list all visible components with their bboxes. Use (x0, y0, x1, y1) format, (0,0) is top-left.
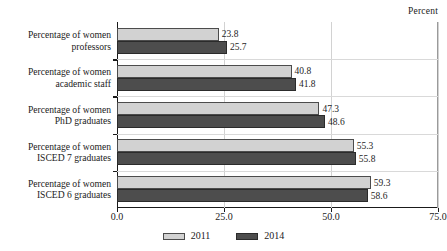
bar-value-label: 58.6 (368, 191, 388, 201)
bar-2014[interactable] (117, 78, 296, 91)
bar-2014[interactable] (117, 152, 356, 165)
bar-2011[interactable] (117, 28, 219, 41)
legend-label-2014: 2014 (264, 231, 284, 241)
x-axis-line (117, 207, 438, 208)
category-label-line1: Percentage of women (0, 66, 111, 78)
vertical-gridline (438, 22, 439, 208)
legend-label-2011: 2011 (191, 231, 211, 241)
bar-2011[interactable] (117, 65, 292, 78)
x-axis-tick-label: 25.0 (215, 211, 233, 222)
plot-area: 23.825.740.841.847.348.655.355.859.358.6 (117, 22, 438, 208)
x-axis-tick-label: 0.0 (111, 211, 124, 222)
category-label-line2: ISCED 7 graduates (0, 152, 111, 164)
x-axis-tick-label: 50.0 (322, 211, 340, 222)
legend-swatch-2011 (163, 233, 185, 240)
category-label: Percentage of womenISCED 6 graduates (0, 178, 111, 201)
category-label-line2: ISCED 6 graduates (0, 189, 111, 201)
category-label-line1: Percentage of women (0, 141, 111, 153)
y-axis-tick (113, 171, 117, 172)
legend-item-2011[interactable]: 2011 (163, 231, 211, 241)
bar-2014[interactable] (117, 115, 325, 128)
chart-legend: 2011 2014 (0, 231, 447, 241)
bar-2011[interactable] (117, 139, 354, 152)
category-label-line1: Percentage of women (0, 104, 111, 116)
y-axis-tick (113, 96, 117, 97)
bar-value-label: 40.8 (292, 66, 312, 76)
category-label: Percentage of womenPhD graduates (0, 104, 111, 127)
bar-value-label: 47.3 (319, 104, 339, 114)
bar-2011[interactable] (117, 176, 371, 189)
category-label: Percentage of womenprofessors (0, 29, 111, 52)
horizontal-gridline (117, 96, 438, 97)
horizontal-gridline (117, 134, 438, 135)
category-label-line2: PhD graduates (0, 115, 111, 127)
horizontal-gridline (117, 59, 438, 60)
bar-2011[interactable] (117, 102, 319, 115)
bar-2014[interactable] (117, 41, 227, 54)
bar-value-label: 48.6 (325, 117, 345, 127)
category-label: Percentage of womenISCED 7 graduates (0, 141, 111, 164)
category-label-line2: academic staff (0, 78, 111, 90)
bar-value-label: 23.8 (219, 29, 239, 39)
category-label-line2: professors (0, 41, 111, 53)
percent-unit-caption: Percent (408, 6, 438, 16)
bar-2014[interactable] (117, 189, 368, 202)
legend-swatch-2014 (236, 233, 258, 240)
y-axis-tick (113, 59, 117, 60)
bar-value-label: 25.7 (227, 42, 247, 52)
bar-value-label: 41.8 (296, 79, 316, 89)
category-label-line1: Percentage of women (0, 29, 111, 41)
bar-chart: Percent 23.825.740.841.847.348.655.355.8… (0, 0, 447, 251)
y-axis-tick (113, 134, 117, 135)
bar-value-label: 55.3 (354, 141, 374, 151)
category-label: Percentage of womenacademic staff (0, 66, 111, 89)
category-label-line1: Percentage of women (0, 178, 111, 190)
bar-value-label: 55.8 (356, 154, 376, 164)
horizontal-gridline (117, 171, 438, 172)
bar-value-label: 59.3 (371, 178, 391, 188)
x-axis-tick-label: 75.0 (429, 211, 447, 222)
legend-item-2014[interactable]: 2014 (236, 231, 284, 241)
